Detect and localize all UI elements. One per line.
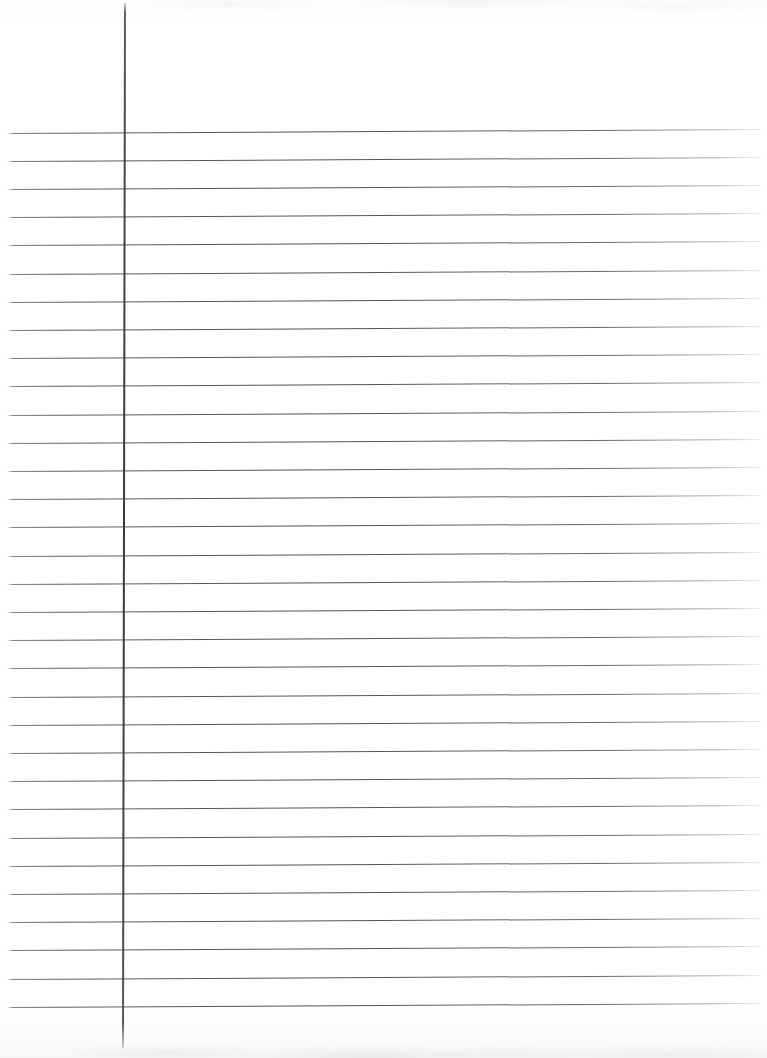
rule-line	[7, 721, 761, 726]
rule-line	[7, 975, 761, 980]
rule-line	[7, 749, 761, 754]
rule-line	[7, 411, 761, 416]
rule-line	[7, 213, 761, 218]
horizontal-rule-lines	[0, 0, 767, 1058]
rule-line	[7, 552, 761, 557]
rule-line	[7, 608, 761, 613]
rule-line	[7, 495, 761, 500]
rule-line	[7, 580, 761, 585]
rule-line	[7, 693, 761, 698]
rule-line	[7, 270, 761, 275]
rule-line	[7, 918, 761, 923]
rule-line	[7, 157, 761, 162]
rule-line	[7, 777, 761, 782]
rule-line	[7, 354, 761, 359]
rule-line	[7, 1003, 761, 1008]
rule-line	[7, 382, 761, 387]
rule-line	[7, 834, 761, 839]
rule-line	[7, 185, 761, 190]
rule-line	[7, 467, 761, 472]
rule-line	[7, 129, 761, 134]
rule-line	[7, 523, 761, 528]
rule-line	[7, 326, 761, 331]
rule-line	[7, 946, 761, 951]
rule-line	[7, 298, 761, 303]
rule-line	[7, 805, 761, 810]
rule-line	[7, 439, 761, 444]
rule-line	[7, 636, 761, 641]
scanned-page	[0, 0, 767, 1058]
rule-line	[7, 664, 761, 669]
rule-line	[7, 890, 761, 895]
rule-line	[7, 241, 761, 246]
rule-line	[7, 862, 761, 867]
